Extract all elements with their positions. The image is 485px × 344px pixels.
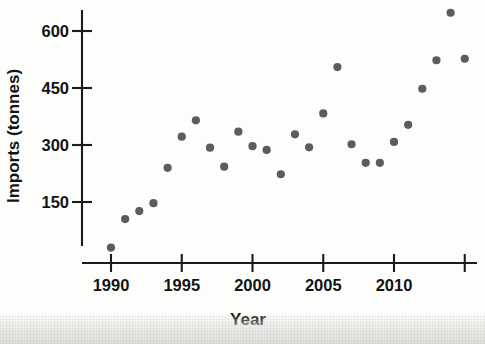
x-tick-label: 1995 xyxy=(163,276,200,294)
data-point xyxy=(220,163,228,171)
x-tick-label: 2000 xyxy=(234,276,271,294)
x-tick-label: 2005 xyxy=(305,276,342,294)
y-axis-ticks: 150300450600 xyxy=(41,22,92,211)
data-point xyxy=(461,55,469,63)
y-tick-label: 150 xyxy=(41,193,69,211)
data-point xyxy=(319,109,327,117)
y-tick-label: 300 xyxy=(41,136,69,154)
data-point xyxy=(376,159,384,167)
data-point xyxy=(192,116,200,124)
x-axis-ticks: 19901995200020052010 xyxy=(93,254,465,294)
data-point xyxy=(164,164,172,172)
data-point xyxy=(347,140,355,148)
data-point xyxy=(121,215,129,223)
x-tick-label: 1990 xyxy=(93,276,130,294)
data-point xyxy=(390,138,398,146)
data-point xyxy=(248,142,256,150)
plot-canvas: 150300450600 19901995200020052010 Year I… xyxy=(0,0,485,344)
data-point xyxy=(178,133,186,141)
axes-group xyxy=(82,10,477,263)
data-point xyxy=(404,121,412,129)
data-points-layer xyxy=(107,9,469,252)
data-point xyxy=(277,170,285,178)
data-point xyxy=(263,146,271,154)
data-point xyxy=(107,244,115,252)
data-point xyxy=(234,128,242,136)
data-point xyxy=(362,159,370,167)
y-axis-title: Imports (tonnes) xyxy=(4,69,23,203)
data-point xyxy=(305,143,313,151)
data-point xyxy=(135,207,143,215)
data-point xyxy=(291,130,299,138)
y-tick-label: 450 xyxy=(41,79,69,97)
data-point xyxy=(447,9,455,17)
data-point xyxy=(432,56,440,64)
data-point xyxy=(333,63,341,71)
x-tick-label: 2010 xyxy=(376,276,413,294)
y-tick-label: 600 xyxy=(41,22,69,40)
x-axis-title: Year xyxy=(230,310,266,329)
data-point xyxy=(149,199,157,207)
data-point xyxy=(206,144,214,152)
scatter-chart-figure: 150300450600 19901995200020052010 Year I… xyxy=(0,0,485,344)
data-point xyxy=(418,85,426,93)
